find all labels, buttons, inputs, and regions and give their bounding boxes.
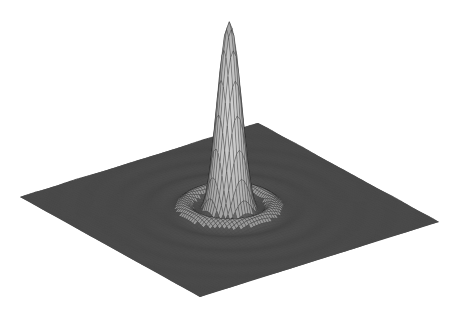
surface-plot-canvas <box>0 0 457 312</box>
surface-mesh <box>20 22 439 297</box>
surface-plot <box>0 0 457 312</box>
